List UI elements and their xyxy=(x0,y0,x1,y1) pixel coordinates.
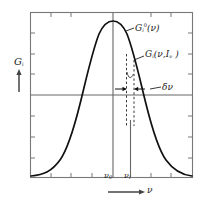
x-axis-arrow xyxy=(108,189,145,194)
delta-nu-arrow-right-head xyxy=(134,87,138,91)
saturated-gain-argument: (ν,I xyxy=(154,49,169,59)
nu0-subscript: 0 xyxy=(109,174,112,180)
leader-line-saturated xyxy=(134,56,144,60)
x-tick-label-nui: νi xyxy=(124,171,130,180)
y-axis-subscript: i xyxy=(22,61,24,67)
nui-subscript: i xyxy=(129,174,131,180)
saturated-gain-label: Gi(ν,Iν ) xyxy=(145,49,179,59)
x-tick-label-nu0: ν0 xyxy=(104,171,112,180)
y-axis-label: Gi xyxy=(14,56,24,67)
unsaturated-gain-label: Gi0(ν) xyxy=(135,22,160,33)
delta-nu-label: δν xyxy=(162,82,173,92)
x-axis-label: ν xyxy=(147,185,152,195)
leader-line-delta-nu xyxy=(150,87,161,89)
y-axis-symbol: G xyxy=(14,56,22,67)
delta-nu-arrows xyxy=(115,87,145,91)
saturation-dip-marker xyxy=(127,72,134,78)
axis-ticks-top xyxy=(51,13,171,18)
hole-burning-dashed-band xyxy=(127,54,135,126)
gain-curve xyxy=(31,21,192,176)
y-axis-arrow xyxy=(16,69,21,92)
delta-nu-arrow-left-head xyxy=(123,87,127,91)
saturated-gain-argument-close: ) xyxy=(172,49,178,59)
unsaturated-gain-argument: (ν) xyxy=(147,23,160,33)
leader-line-unsaturated xyxy=(126,28,134,31)
